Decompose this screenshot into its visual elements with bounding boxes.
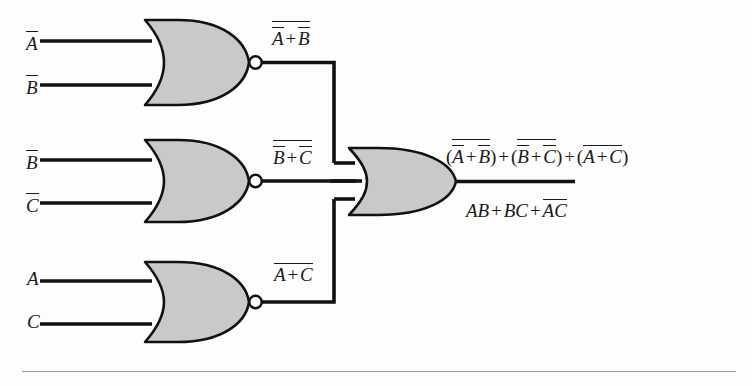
final-output-label-top: (A+B)+(B+C)+(A+C) xyxy=(446,137,628,167)
nor-gate-2-output-label: B+C xyxy=(273,138,312,168)
input-c-bar-label: C xyxy=(26,190,39,217)
nor-gate-1-output-label: A+B xyxy=(272,19,310,49)
or-gate-final-body xyxy=(349,148,456,215)
input-a-label: A xyxy=(27,268,39,290)
nor-gate-3-output-label: A+C xyxy=(274,260,313,285)
nor-gate-3-bubble-icon xyxy=(249,296,261,308)
input-b-bar-label: B xyxy=(26,72,38,99)
footer-divider xyxy=(22,371,736,372)
nor-gate-2-bubble-icon xyxy=(249,175,261,187)
nor-gate-3-body xyxy=(145,262,249,342)
input-c-label: C xyxy=(27,311,40,333)
wire-gate3-to-or xyxy=(262,199,334,302)
input-b-bar-2-label: B xyxy=(26,147,38,174)
logic-circuit-diagram xyxy=(0,0,752,386)
final-output-label-bottom: AB+BC+AC xyxy=(466,196,567,221)
figure-canvas: A B B C A C A+B B+C A+C (A+B)+(B+C)+(A+C… xyxy=(0,0,752,386)
nor-gate-1-bubble-icon xyxy=(249,56,261,68)
nor-gate-2-body xyxy=(145,140,249,222)
nor-gate-1-body xyxy=(145,20,249,105)
input-a-bar-label: A xyxy=(26,28,38,55)
